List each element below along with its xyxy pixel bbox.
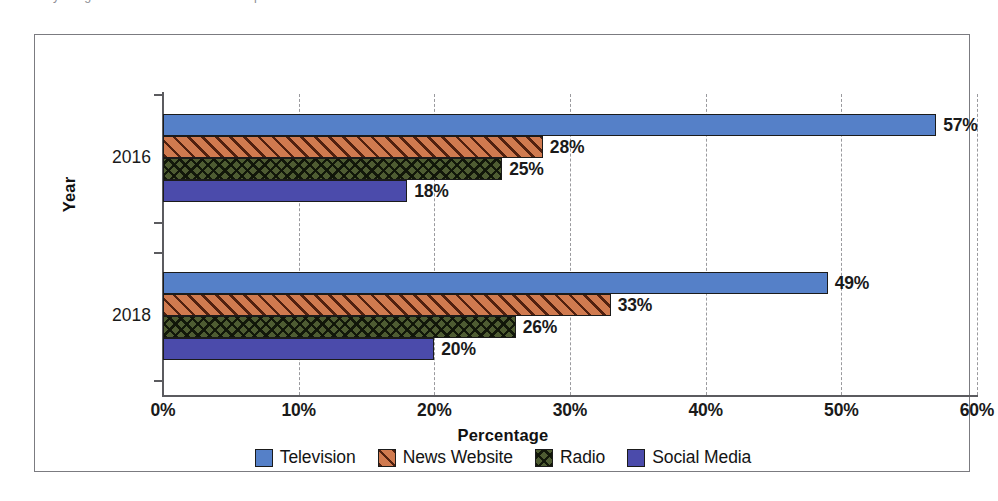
x-tick-label-10: 10% xyxy=(264,400,334,421)
gridline-50 xyxy=(841,94,842,395)
bar-value-label-2016-social-media: 18% xyxy=(414,180,448,202)
bar-value-label-2018-social-media: 20% xyxy=(441,338,475,360)
gridline-40 xyxy=(706,94,707,395)
bar-value-label-2018-television: 49% xyxy=(835,272,869,294)
legend-swatch-social-media-icon xyxy=(627,449,645,467)
bar-value-label-2018-radio: 26% xyxy=(523,316,557,338)
legend-item-radio[interactable]: Radio xyxy=(535,447,605,468)
y-axis-title: Year xyxy=(60,155,79,235)
x-tick-label-20: 20% xyxy=(399,400,469,421)
bar-value-label-2016-news-website: 28% xyxy=(550,136,584,158)
bar-2016-television xyxy=(163,114,936,136)
x-axis-title: Percentage xyxy=(35,426,971,445)
legend-item-news-website[interactable]: News Website xyxy=(378,447,513,468)
x-tick-label-60: 60% xyxy=(942,400,998,421)
bar-2016-news-website xyxy=(163,136,543,158)
x-tick-label-0: 0% xyxy=(128,400,198,421)
category-label-2018: 2018 xyxy=(81,305,151,326)
bar-2018-television xyxy=(163,272,828,294)
bar-2018-radio xyxy=(163,316,516,338)
chart-legend: TelevisionNews WebsiteRadioSocial Media xyxy=(35,447,971,468)
bar-2018-social-media xyxy=(163,338,434,360)
bar-2018-news-website xyxy=(163,294,611,316)
caption-text: by the gardens and trees here in the per… xyxy=(46,0,353,3)
bar-2016-radio xyxy=(163,158,502,180)
bar-value-label-2016-television: 57% xyxy=(943,114,977,136)
legend-item-social-media[interactable]: Social Media xyxy=(627,447,751,468)
category-tick-2018-0 xyxy=(154,252,163,254)
legend-swatch-radio-icon xyxy=(535,449,553,467)
legend-label-television: Television xyxy=(280,447,356,468)
bar-value-label-2018-news-website: 33% xyxy=(618,294,652,316)
legend-label-social-media: Social Media xyxy=(652,447,751,468)
x-tick-label-50: 50% xyxy=(806,400,876,421)
gridline-60 xyxy=(977,94,978,395)
x-tick-label-30: 30% xyxy=(535,400,605,421)
category-label-2016: 2016 xyxy=(81,147,151,168)
chart-frame: Year 0%10%20%30%40%50%60% 20162018 57%28… xyxy=(34,34,970,472)
category-tick-2016-0 xyxy=(154,94,163,96)
category-tick-2018-1 xyxy=(154,380,163,382)
bar-2016-social-media xyxy=(163,180,407,202)
bar-value-label-2016-radio: 25% xyxy=(509,158,543,180)
legend-label-news-website: News Website xyxy=(403,447,513,468)
category-tick-2016-1 xyxy=(154,222,163,224)
legend-swatch-television-icon xyxy=(255,449,273,467)
value-axis-spine xyxy=(162,395,978,397)
cropped-caption-strip: by the gardens and trees here in the per… xyxy=(0,0,998,12)
legend-swatch-news-website-icon xyxy=(378,449,396,467)
legend-label-radio: Radio xyxy=(560,447,605,468)
legend-item-television[interactable]: Television xyxy=(255,447,356,468)
x-tick-label-40: 40% xyxy=(671,400,741,421)
